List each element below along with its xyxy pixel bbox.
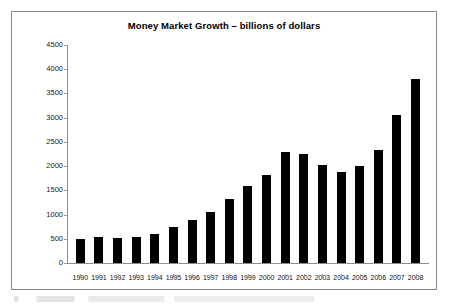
scan-artifact-strip: [14, 296, 314, 302]
bar-1992[interactable]: [113, 238, 122, 263]
x-tick-mark: [267, 274, 268, 278]
y-tick-label: 1500: [46, 187, 63, 195]
bar-2000[interactable]: [262, 175, 271, 263]
chart-frame: Money Market Growth – billions of dollar…: [11, 11, 437, 290]
y-tick-label: 0: [59, 259, 63, 267]
figure-canvas: Money Market Growth – billions of dollar…: [0, 0, 451, 307]
bar-slot: [332, 45, 351, 263]
x-tick-label: 2008: [406, 274, 425, 281]
x-axis-tick: 1992: [108, 266, 127, 284]
x-tick-mark: [136, 274, 137, 278]
bar-1993[interactable]: [132, 237, 141, 263]
y-tick-mark: [64, 263, 68, 264]
bar-2007[interactable]: [392, 115, 401, 263]
y-tick-label: 4500: [46, 41, 63, 49]
x-axis-tick: 1991: [90, 266, 109, 284]
y-tick-label: 4000: [46, 65, 63, 73]
x-tick-mark: [99, 274, 100, 278]
bar-2002[interactable]: [299, 154, 308, 263]
x-axis-tick: 1999: [239, 266, 258, 284]
bar-slot: [90, 45, 109, 263]
x-axis-tick: 2008: [406, 266, 425, 284]
x-tick-label: 2000: [257, 274, 276, 281]
bar-slot: [201, 45, 220, 263]
bar-2006[interactable]: [374, 150, 383, 263]
bar-slot: [220, 45, 239, 263]
bar-slot: [71, 45, 90, 263]
x-tick-label: 2005: [350, 274, 369, 281]
x-axis-tick: 1990: [71, 266, 90, 284]
x-axis-tick: 2007: [388, 266, 407, 284]
x-tick-label: 2003: [313, 274, 332, 281]
x-axis-tick: 1994: [146, 266, 165, 284]
x-tick-label: 1992: [108, 274, 127, 281]
bar-slot: [108, 45, 127, 263]
x-axis-tick: 2004: [332, 266, 351, 284]
x-axis-tick: 2001: [276, 266, 295, 284]
bar-slot: [369, 45, 388, 263]
x-tick-mark: [80, 274, 81, 278]
y-tick-label: 500: [50, 235, 63, 243]
x-axis-tick: 1996: [183, 266, 202, 284]
x-tick-label: 1990: [71, 274, 90, 281]
x-tick-mark: [322, 274, 323, 278]
x-axis-tick: 1993: [127, 266, 146, 284]
x-tick-mark: [285, 274, 286, 278]
x-tick-label: 1991: [90, 274, 109, 281]
bar-slot: [239, 45, 258, 263]
x-tick-mark: [341, 274, 342, 278]
x-axis-tick: 1997: [201, 266, 220, 284]
x-axis-labels: 1990199119921993199419951996199719981999…: [68, 266, 428, 284]
x-axis-tick: 2006: [369, 266, 388, 284]
x-tick-label: 2007: [388, 274, 407, 281]
bar-slot: [406, 45, 425, 263]
bar-slot: [164, 45, 183, 263]
bar-2005[interactable]: [355, 166, 364, 263]
x-tick-mark: [118, 274, 119, 278]
bar-1997[interactable]: [206, 212, 215, 263]
x-tick-mark: [248, 274, 249, 278]
bar-1998[interactable]: [225, 199, 234, 263]
x-tick-label: 1996: [183, 274, 202, 281]
plot-area: 450040003500300025002000150010005000: [68, 45, 428, 263]
x-tick-mark: [397, 274, 398, 278]
bar-slot: [146, 45, 165, 263]
x-axis-tick: 1998: [220, 266, 239, 284]
bar-slot: [295, 45, 314, 263]
bar-2008[interactable]: [411, 79, 420, 263]
y-tick-label: 2000: [46, 162, 63, 170]
x-axis-tick: 2003: [313, 266, 332, 284]
x-tick-label: 1993: [127, 274, 146, 281]
bar-1994[interactable]: [150, 234, 159, 263]
x-tick-label: 1999: [239, 274, 258, 281]
bar-1995[interactable]: [169, 227, 178, 263]
bar-slot: [257, 45, 276, 263]
x-tick-label: 1994: [146, 274, 165, 281]
y-tick-label: 3000: [46, 114, 63, 122]
bar-1999[interactable]: [243, 186, 252, 263]
bar-1990[interactable]: [76, 239, 85, 263]
x-tick-mark: [192, 274, 193, 278]
x-axis-tick: 2000: [257, 266, 276, 284]
x-axis-tick: 1995: [164, 266, 183, 284]
x-tick-mark: [416, 274, 417, 278]
x-tick-label: 2006: [369, 274, 388, 281]
x-tick-label: 1998: [220, 274, 239, 281]
x-axis-tick: 2002: [295, 266, 314, 284]
x-tick-mark: [378, 274, 379, 278]
bar-1996[interactable]: [188, 220, 197, 263]
bar-slot: [313, 45, 332, 263]
bar-2001[interactable]: [281, 152, 290, 263]
bar-1991[interactable]: [94, 237, 103, 263]
chart-title: Money Market Growth – billions of dollar…: [12, 20, 436, 31]
x-axis-line: [67, 263, 429, 264]
x-tick-mark: [173, 274, 174, 278]
x-tick-label: 1997: [201, 274, 220, 281]
bar-series: [68, 45, 428, 263]
x-tick-label: 1995: [164, 274, 183, 281]
bar-2003[interactable]: [318, 165, 327, 263]
bar-2004[interactable]: [337, 172, 346, 263]
bar-slot: [350, 45, 369, 263]
x-tick-label: 2004: [332, 274, 351, 281]
x-tick-mark: [155, 274, 156, 278]
